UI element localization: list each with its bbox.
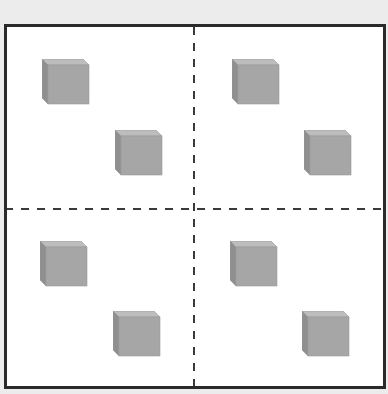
- cube-icon: [230, 241, 278, 287]
- cube-icon: [115, 130, 163, 176]
- cube-bottom-right-1: [230, 241, 278, 287]
- diagram-canvas: [0, 0, 388, 394]
- cube-bottom-left-2: [113, 311, 161, 357]
- cube-bottom-left-1: [40, 241, 88, 287]
- vertical-dashed-divider: [193, 27, 195, 386]
- cube-icon: [42, 59, 90, 105]
- horizontal-dashed-divider: [7, 208, 383, 210]
- cube-bottom-right-2: [302, 311, 350, 357]
- cube-top-left-1: [42, 59, 90, 105]
- cube-top-right-2: [304, 130, 352, 176]
- cube-icon: [113, 311, 161, 357]
- cube-icon: [40, 241, 88, 287]
- cube-top-left-2: [115, 130, 163, 176]
- cube-icon: [304, 130, 352, 176]
- cube-icon: [302, 311, 350, 357]
- cube-icon: [232, 59, 280, 105]
- cube-top-right-1: [232, 59, 280, 105]
